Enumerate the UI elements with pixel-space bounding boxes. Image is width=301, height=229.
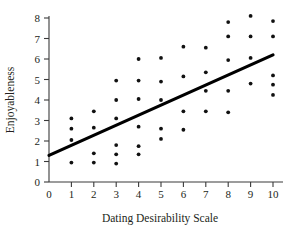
y-tick-label: 1 <box>35 156 41 168</box>
x-tick-label: 1 <box>69 188 75 200</box>
data-point <box>182 128 186 132</box>
x-tick-label: 0 <box>46 188 52 200</box>
data-point <box>226 20 230 24</box>
data-point <box>226 89 230 93</box>
data-point <box>114 79 118 83</box>
y-axis-title: Enjoyableness <box>4 66 17 133</box>
data-point <box>114 152 118 156</box>
data-point <box>92 126 96 130</box>
data-point <box>159 80 163 84</box>
data-point <box>249 56 253 60</box>
data-point <box>249 35 253 39</box>
data-point <box>70 138 74 142</box>
data-point <box>114 162 118 166</box>
data-point <box>92 109 96 113</box>
data-point <box>204 89 208 93</box>
data-point <box>249 14 253 18</box>
data-point <box>271 83 275 87</box>
data-point <box>182 45 186 49</box>
data-points-layer <box>70 14 275 165</box>
x-tick-label: 3 <box>113 188 119 200</box>
data-point <box>137 144 141 148</box>
data-point <box>159 98 163 102</box>
y-tick-label: 7 <box>35 33 41 45</box>
data-point <box>182 109 186 113</box>
data-point <box>70 117 74 121</box>
y-tick-label: 4 <box>35 94 41 106</box>
data-point <box>249 82 253 86</box>
data-point <box>137 57 141 61</box>
data-point <box>137 152 141 156</box>
data-point <box>137 79 141 83</box>
x-axis: 012345678910 <box>46 182 283 200</box>
data-point <box>159 56 163 60</box>
data-point <box>70 127 74 131</box>
data-point <box>271 19 275 23</box>
data-point <box>182 75 186 79</box>
data-point <box>226 58 230 62</box>
data-point <box>70 161 74 165</box>
x-axis-title: Dating Desirability Scale <box>102 212 218 225</box>
x-tick-label: 9 <box>248 188 254 200</box>
y-tick-label: 5 <box>35 74 41 86</box>
data-point <box>204 46 208 50</box>
data-point <box>137 125 141 129</box>
x-tick-label: 8 <box>225 188 231 200</box>
chart-canvas: 012345678 012345678910 Dating Desirabili… <box>0 0 301 229</box>
x-tick-label: 5 <box>158 188 164 200</box>
data-point <box>114 98 118 102</box>
y-tick-label: 8 <box>35 12 41 24</box>
x-tick-label: 2 <box>91 188 97 200</box>
x-tick-label: 7 <box>203 188 209 200</box>
data-point <box>226 110 230 114</box>
data-point <box>114 117 118 121</box>
data-point <box>92 151 96 155</box>
data-point <box>159 137 163 141</box>
data-point <box>159 127 163 131</box>
data-point <box>92 161 96 165</box>
data-point <box>226 35 230 39</box>
data-point <box>137 97 141 101</box>
data-point <box>114 143 118 147</box>
x-tick-label: 4 <box>136 188 142 200</box>
x-tick-label: 6 <box>181 188 187 200</box>
y-tick-label: 3 <box>35 115 41 127</box>
y-tick-label: 6 <box>35 53 41 65</box>
y-tick-label: 0 <box>35 176 41 188</box>
data-point <box>271 93 275 97</box>
x-tick-label: 10 <box>268 188 280 200</box>
data-point <box>204 70 208 74</box>
data-point <box>271 35 275 39</box>
y-tick-label: 2 <box>35 135 41 147</box>
y-axis: 012345678 <box>35 12 50 188</box>
data-point <box>204 109 208 113</box>
scatter-plot-figure: 012345678 012345678910 Dating Desirabili… <box>0 0 301 229</box>
data-point <box>271 74 275 78</box>
